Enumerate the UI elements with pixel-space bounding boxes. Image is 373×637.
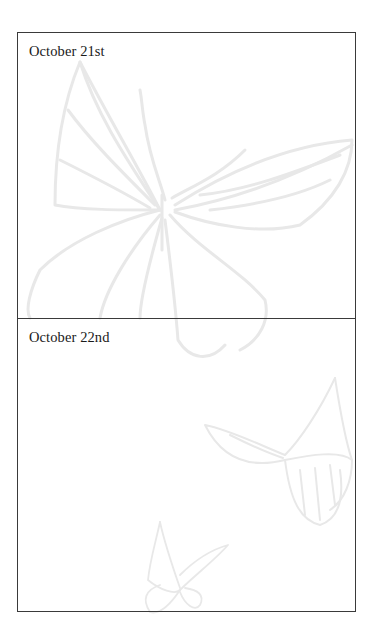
entry-body-text[interactable] — [18, 65, 355, 318]
journal-entry-october-22[interactable]: October 22nd — [18, 319, 355, 611]
entry-body-text[interactable] — [18, 351, 355, 611]
entry-date-heading: October 21st — [29, 43, 105, 60]
journal-entry-october-21[interactable]: October 21st — [18, 33, 355, 319]
journal-page: October 21st October 22nd — [17, 32, 356, 612]
entry-date-heading: October 22nd — [29, 329, 110, 346]
